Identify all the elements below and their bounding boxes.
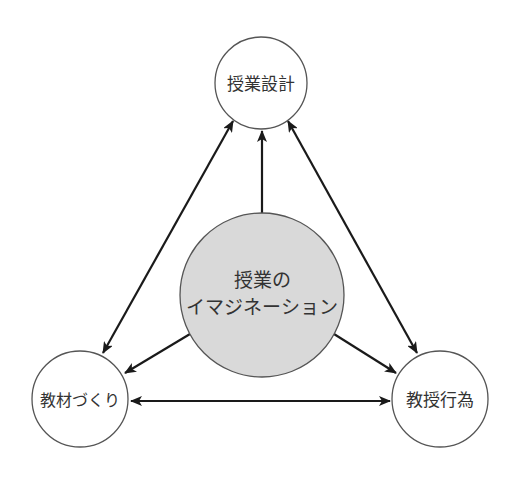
lesson-design-label: 授業設計	[227, 74, 295, 94]
materials-label: 教材づくり	[40, 391, 120, 410]
node-lesson-design: 授業設計	[215, 37, 307, 129]
arrow-center-to-materials	[125, 334, 190, 373]
diagram-canvas: 授業の イマジネーション 授業設計 教材づくり 教授行為	[0, 0, 523, 484]
center-label-line2: イマジネーション	[186, 296, 338, 318]
teaching-act-label: 教授行為	[406, 390, 474, 410]
node-teaching-act: 教授行為	[392, 351, 488, 447]
node-materials: 教材づくり	[32, 351, 128, 447]
arrow-center-to-teaching	[334, 334, 396, 373]
node-center: 授業の イマジネーション	[180, 213, 344, 377]
center-label-line1: 授業の	[234, 269, 291, 291]
